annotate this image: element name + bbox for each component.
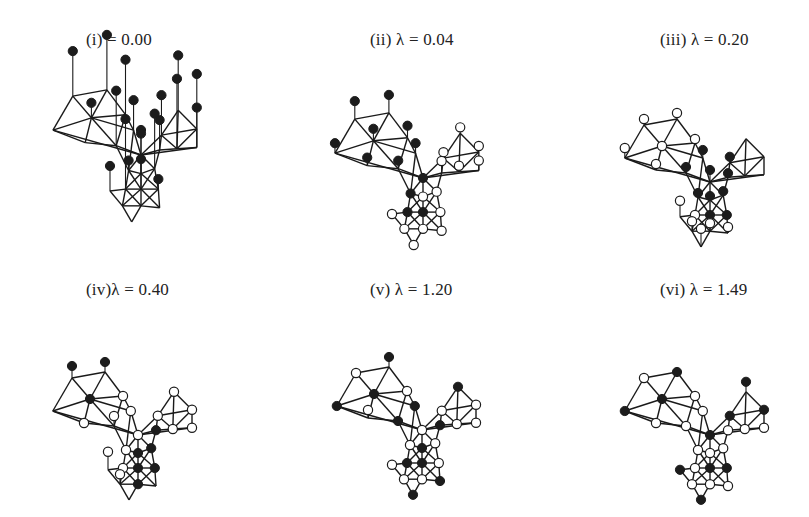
open-node [657,141,666,150]
graph-edge [625,411,710,435]
open-node [169,387,178,396]
open-node [639,373,648,382]
filled-node [453,382,462,391]
graph-edge [161,110,178,135]
graph-edge [110,189,126,191]
open-node [651,418,660,427]
filled-node [672,367,681,376]
filled-node [136,129,145,138]
open-node [675,196,684,205]
open-node [474,156,483,165]
graph-edge [122,206,131,222]
open-node [399,475,408,484]
filled-node [85,394,94,403]
filled-node [417,458,426,467]
open-node [693,445,702,454]
open-node [639,114,648,123]
open-node [723,481,732,490]
filled-node [350,97,359,106]
open-node [363,405,372,414]
open-node [651,159,660,168]
open-node [387,460,396,469]
open-node [434,458,443,467]
graph-v [270,258,539,516]
open-node [471,418,480,427]
filled-node [393,416,402,425]
open-node [687,217,696,226]
graph-edge [158,189,159,208]
open-node [437,156,446,165]
panel-i: (i) = 0.00 [0,0,269,258]
open-node [690,463,699,472]
graph-iii [540,0,809,258]
open-node [405,440,414,449]
graph-edge [337,406,422,430]
open-node [351,368,360,377]
graph-edge [178,110,197,129]
filled-node [369,124,378,133]
open-node [187,423,196,432]
graph-edge [91,115,125,118]
filled-node [722,463,731,472]
open-node [417,425,426,434]
filled-node [147,444,156,453]
graph-edge [53,411,138,435]
open-node [437,406,446,415]
filled-node [705,463,714,472]
open-node [387,209,396,218]
filled-node [150,109,159,118]
graph-edge [710,231,728,233]
open-node [690,134,699,143]
open-node [719,444,728,453]
graph-edge [625,158,710,182]
filled-node [723,169,732,178]
graph-edge [335,153,423,178]
filled-node [330,139,339,148]
filled-node [121,55,130,64]
open-node [452,419,461,428]
filled-node [418,208,427,217]
graph-edge [120,484,129,500]
filled-node [725,152,734,161]
filled-node [121,115,130,124]
open-node [418,192,427,201]
filled-node [705,165,714,174]
filled-node [157,91,166,100]
filled-node [174,51,183,60]
graph-edge [173,392,174,429]
graph-vi [540,258,809,516]
filled-node [741,377,750,386]
graph-edge [141,206,160,208]
filled-node [403,121,412,130]
filled-node [363,153,372,162]
panel-ii: (ii) λ = 0.04 [270,0,539,258]
graph-edge [110,191,122,206]
filled-node [87,98,96,107]
open-node [417,475,426,484]
filled-node [693,188,702,197]
filled-node [150,463,159,472]
open-node [121,445,130,454]
filled-node [410,401,419,410]
open-node [723,222,732,231]
filled-node [435,476,444,485]
graph-edge [132,206,141,222]
open-node [690,391,699,400]
filled-node [68,47,77,56]
open-node [432,187,441,196]
open-node [439,148,448,157]
filled-node [133,448,142,457]
filled-node [705,191,714,200]
filled-node [192,69,201,78]
filled-node [369,389,378,398]
graph-edge [373,138,407,141]
filled-node [620,406,629,415]
filled-node [192,103,201,112]
filled-node [402,458,411,467]
open-node [115,470,124,479]
graph-edge [457,387,458,424]
filled-node [675,465,684,474]
filled-node [133,480,142,489]
open-node [437,226,446,235]
panel-v: (v) λ = 1.20 [270,258,539,516]
